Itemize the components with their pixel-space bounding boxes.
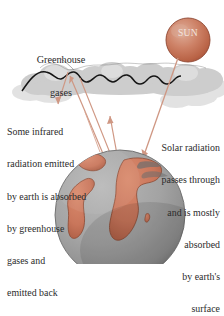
infrared-label-line-1: Some infrared: [7, 127, 103, 138]
solar-label-line-2: passes through: [136, 175, 220, 186]
solar-label-line-3: and is mostly: [136, 208, 220, 219]
solar-radiation-label: Solar radiation passes through and is mo…: [136, 122, 220, 316]
infrared-radiation-label: Some infrared radiation emitted by earth…: [7, 106, 103, 316]
infrared-label-line-6: emitted back: [7, 288, 103, 299]
greenhouse-label-line-2: gases: [22, 87, 100, 98]
solar-label-line-6: surface: [136, 304, 220, 315]
solar-label-line-5: by earth's: [136, 272, 220, 283]
infrared-label-line-4: by greenhouse: [7, 224, 103, 235]
sun-graphic: [166, 18, 210, 62]
infrared-label-line-3: by earth is absorbed: [7, 192, 103, 203]
solar-label-line-1: Solar radiation: [136, 143, 220, 154]
infrared-label-line-2: radiation emitted: [7, 159, 103, 170]
sun-label: SUN: [168, 27, 208, 38]
greenhouse-label-line-1: Greenhouse: [22, 54, 100, 65]
infrared-label-line-5: gases and: [7, 256, 103, 267]
solar-label-line-4: absorbed: [136, 240, 220, 251]
